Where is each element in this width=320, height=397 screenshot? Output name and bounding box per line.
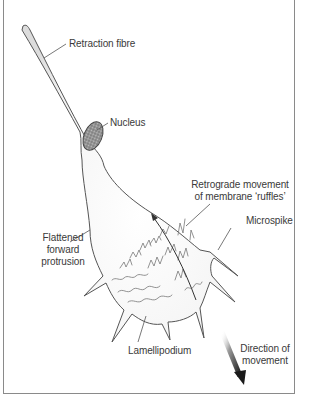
label-direction-of-movement: Direction of movement [232, 343, 298, 367]
label-flattened-line2: forward [28, 244, 98, 256]
label-retrograde-line2: of membrane ‘ruffles’ [190, 191, 290, 203]
label-direction-line1: Direction of [232, 343, 298, 355]
label-direction-line2: movement [232, 355, 298, 367]
label-retrograde: Retrograde movement of membrane ‘ruffles… [190, 179, 290, 203]
label-flattened-forward-protrusion: Flattened forward protrusion [28, 232, 98, 268]
label-nucleus: Nucleus [110, 117, 145, 129]
label-retrograde-line1: Retrograde movement [190, 179, 290, 191]
label-microspike: Microspike [246, 215, 293, 227]
label-lamellipodium: Lamellipodium [128, 345, 191, 357]
label-retraction-fibre: Retraction fibre [69, 38, 135, 50]
label-flattened-line3: protrusion [28, 256, 98, 268]
label-flattened-line1: Flattened [28, 232, 98, 244]
